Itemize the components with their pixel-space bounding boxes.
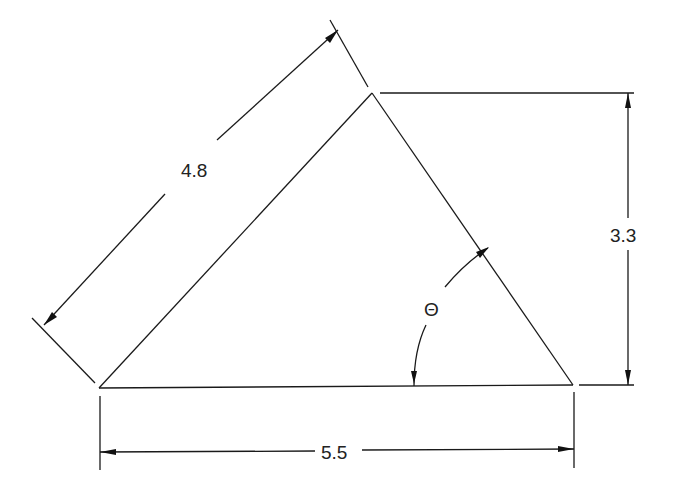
arrowhead-left bbox=[100, 449, 116, 455]
dimension-line-lower bbox=[44, 194, 165, 325]
height-label: 3.3 bbox=[610, 225, 636, 246]
arrowhead-upper bbox=[325, 30, 338, 43]
extension-line-base-left bbox=[32, 318, 95, 383]
arrowhead-right bbox=[558, 446, 574, 452]
arrowhead-top bbox=[625, 93, 631, 108]
dimension-line-upper bbox=[217, 30, 338, 140]
angle-arrowhead-lower bbox=[411, 371, 417, 384]
angle-theta: Θ bbox=[411, 247, 489, 386]
dimension-line-right bbox=[362, 449, 574, 450]
triangle bbox=[99, 93, 573, 388]
hypotenuse-label: 4.8 bbox=[181, 160, 207, 181]
dimension-hypotenuse: 4.8 bbox=[32, 20, 368, 383]
dimension-line-left bbox=[100, 451, 315, 452]
angle-arrowhead-upper bbox=[476, 247, 489, 258]
angle-label: Θ bbox=[424, 299, 439, 320]
triangle-diagram: 4.8 3.3 5.5 Θ bbox=[0, 0, 674, 499]
angle-arc-lower bbox=[414, 325, 426, 386]
extension-line-apex bbox=[330, 20, 368, 87]
arrowhead-bottom bbox=[625, 370, 631, 385]
base-label: 5.5 bbox=[321, 442, 347, 463]
triangle-base bbox=[99, 385, 573, 388]
dimension-height: 3.3 bbox=[380, 93, 636, 385]
dimension-base: 5.5 bbox=[100, 392, 574, 470]
triangle-right-side bbox=[372, 93, 573, 385]
triangle-left-side bbox=[99, 93, 372, 388]
